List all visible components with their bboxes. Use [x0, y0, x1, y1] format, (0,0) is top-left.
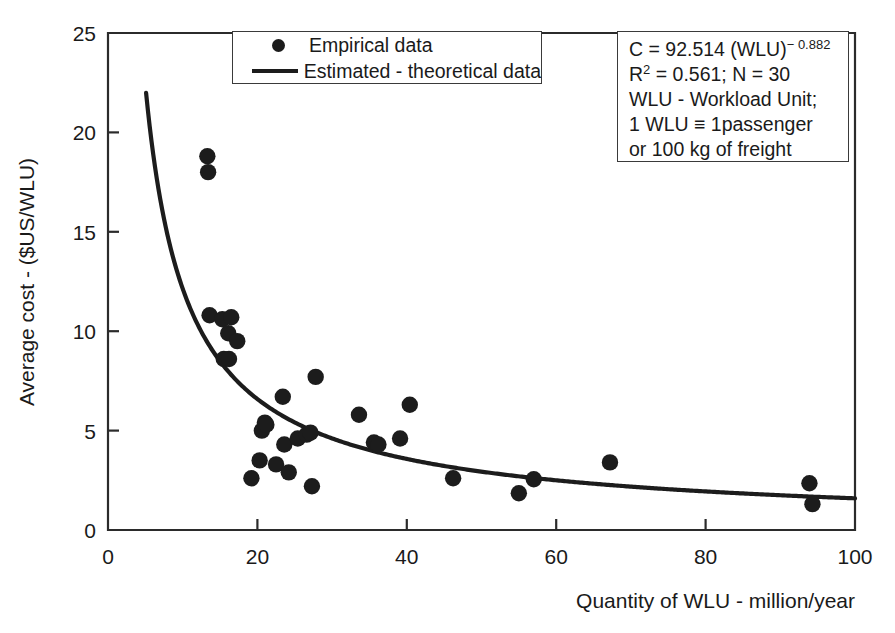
- legend-label-empirical: Empirical data: [309, 36, 433, 55]
- x-tick-label: 60: [545, 545, 568, 568]
- x-tick-label: 0: [102, 545, 114, 568]
- y-tick-label: 5: [84, 420, 96, 443]
- annotation-equation-base: C = 92.514 (WLU): [629, 38, 787, 60]
- y-tick-label: 25: [73, 22, 96, 45]
- annotation-wlu-definition: WLU - Workload Unit;: [629, 87, 848, 112]
- data-point: [304, 478, 320, 494]
- legend-item-estimated: Estimated - theoretical data: [233, 58, 541, 84]
- x-tick-label: 40: [395, 545, 418, 568]
- data-point: [243, 470, 259, 486]
- legend-marker-dot-icon: [247, 39, 309, 52]
- x-axis-title: Quantity of WLU - million/year: [576, 589, 855, 612]
- annotation-rsquared-symbol: R: [629, 63, 643, 85]
- annotation-wlu-freight: or 100 kg of freight: [629, 137, 848, 162]
- legend-marker-line-icon: [247, 69, 304, 74]
- annotation-equation-exponent: − 0.882: [787, 37, 831, 52]
- y-axis-title: Average cost - ($US/WLU): [15, 158, 38, 406]
- data-point: [221, 351, 237, 367]
- data-point: [275, 389, 291, 405]
- x-tick-label: 100: [837, 545, 872, 568]
- data-point: [223, 309, 239, 325]
- legend-item-empirical: Empirical data: [233, 32, 541, 58]
- data-point: [602, 454, 618, 470]
- data-point: [229, 333, 245, 349]
- data-point: [281, 464, 297, 480]
- scatter-chart-figure: 020406080100 0510152025 Quantity of WLU …: [0, 0, 895, 633]
- data-point: [801, 475, 817, 491]
- y-tick-label: 10: [73, 320, 96, 343]
- annotation-rsquared-value: = 0.561; N = 30: [650, 63, 790, 85]
- y-tick-label: 15: [73, 221, 96, 244]
- x-axis-tick-labels: 020406080100: [102, 545, 872, 568]
- data-point: [392, 430, 408, 446]
- chart-legend: Empirical data Estimated - theoretical d…: [232, 31, 542, 84]
- legend-label-estimated: Estimated - theoretical data: [304, 62, 541, 81]
- data-point: [302, 424, 318, 440]
- data-point-markers: [199, 148, 820, 512]
- equation-annotation-box: C = 92.514 (WLU)− 0.882 R2 = 0.561; N = …: [617, 31, 849, 162]
- y-tick-label: 20: [73, 121, 96, 144]
- annotation-equation-line: C = 92.514 (WLU)− 0.882: [629, 37, 848, 62]
- annotation-wlu-passenger: 1 WLU ≡ 1passenger: [629, 112, 848, 137]
- y-tick-label: 0: [84, 519, 96, 542]
- x-tick-label: 20: [246, 545, 269, 568]
- data-point: [351, 407, 367, 423]
- data-point: [526, 471, 542, 487]
- data-point: [307, 369, 323, 385]
- y-axis-ticks: [108, 132, 119, 430]
- data-point: [445, 470, 461, 486]
- data-point: [251, 452, 267, 468]
- data-point: [511, 485, 527, 501]
- data-point: [200, 164, 216, 180]
- data-point: [804, 496, 820, 512]
- data-point: [370, 436, 386, 452]
- data-point: [258, 416, 274, 432]
- data-point: [402, 397, 418, 413]
- x-axis-ticks: [257, 519, 705, 530]
- y-axis-tick-labels: 0510152025: [73, 22, 96, 542]
- x-tick-label: 80: [694, 545, 717, 568]
- annotation-rsquared-line: R2 = 0.561; N = 30: [629, 62, 848, 87]
- data-point: [199, 148, 215, 164]
